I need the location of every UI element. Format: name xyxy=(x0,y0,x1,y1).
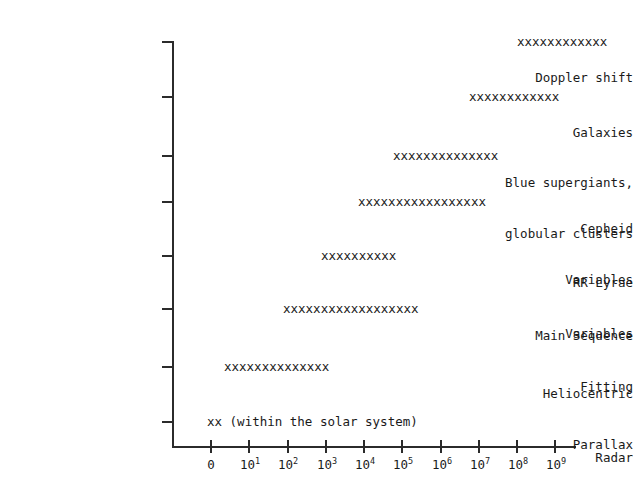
y-label-line: Galaxies xyxy=(473,124,633,141)
x-tick-3 xyxy=(325,440,327,453)
x-tick-base: 10 xyxy=(470,457,485,472)
x-tick-label-6: 106 xyxy=(432,458,452,472)
x-tick-exponent: 5 xyxy=(408,456,413,466)
data-row-heliocentric-parallax: xxxxxxxxxxxxxx xyxy=(224,360,329,374)
data-row-rr-lyrae-variables: xxxxxxxxxx xyxy=(321,249,396,263)
x-tick-6 xyxy=(440,440,442,453)
x-tick-label-4: 104 xyxy=(355,458,375,472)
data-row-main-sequence-fitting: xxxxxxxxxxxxxxxxxx xyxy=(283,302,418,316)
y-label-line: Main Sequence xyxy=(473,327,633,344)
distance-ladder-chart: Doppler shift Galaxies Blue supergiants,… xyxy=(0,0,633,498)
y-axis-line xyxy=(172,41,174,448)
x-tick-2 xyxy=(287,440,289,453)
x-tick-exponent: 7 xyxy=(485,456,490,466)
y-tick-cepheid-variables xyxy=(162,201,173,203)
y-tick-radar xyxy=(162,421,173,423)
y-label-line: Doppler shift xyxy=(473,69,633,86)
x-tick-9 xyxy=(554,440,556,453)
data-row-doppler-shift: xxxxxxxxxxxx xyxy=(517,35,607,49)
y-tick-heliocentric-parallax xyxy=(162,366,173,368)
data-row-galaxies: xxxxxxxxxxxx xyxy=(469,90,559,104)
x-tick-1 xyxy=(248,440,250,453)
x-tick-label-9: 109 xyxy=(546,458,566,472)
y-tick-main-sequence-fitting xyxy=(162,308,173,310)
x-tick-exponent: 6 xyxy=(447,456,452,466)
x-tick-exponent: 2 xyxy=(293,456,298,466)
x-tick-exponent: 3 xyxy=(332,456,337,466)
y-label-line: Cepheid xyxy=(473,220,633,237)
x-tick-label-1: 101 xyxy=(240,458,260,472)
x-tick-base: 10 xyxy=(317,457,332,472)
y-tick-galaxies xyxy=(162,96,173,98)
x-tick-exponent: 9 xyxy=(561,456,566,466)
y-label-line: RR Lyrae xyxy=(473,274,633,291)
x-tick-base: 10 xyxy=(546,457,561,472)
x-tick-base: 10 xyxy=(278,457,293,472)
x-tick-exponent: 8 xyxy=(523,456,528,466)
x-tick-base: 10 xyxy=(508,457,523,472)
x-tick-label-5: 105 xyxy=(393,458,413,472)
data-row-cepheid-variables: xxxxxxxxxxxxxxxxx xyxy=(358,195,486,209)
y-label-line: Heliocentric xyxy=(473,385,633,402)
x-tick-base: 10 xyxy=(355,457,370,472)
x-tick-exponent: 4 xyxy=(370,456,375,466)
x-tick-base: 10 xyxy=(432,457,447,472)
radar-annotation: (within the solar system) xyxy=(222,414,418,429)
data-row-radar: xx (within the solar system) xyxy=(207,415,418,429)
x-tick-exponent: 1 xyxy=(255,456,260,466)
x-tick-label-8: 108 xyxy=(508,458,528,472)
radar-markers: xx xyxy=(207,414,222,429)
x-tick-label-2: 102 xyxy=(278,458,298,472)
x-tick-5 xyxy=(401,440,403,453)
y-tick-rr-lyrae-variables xyxy=(162,255,173,257)
x-tick-label-3: 103 xyxy=(317,458,337,472)
x-tick-label-0: 0 xyxy=(207,458,215,472)
data-row-blue-supergiants: xxxxxxxxxxxxxx xyxy=(393,149,498,163)
y-tick-blue-supergiants xyxy=(162,155,173,157)
x-tick-0 xyxy=(210,440,212,453)
x-tick-label-7: 107 xyxy=(470,458,490,472)
x-tick-8 xyxy=(516,440,518,453)
x-tick-base: 0 xyxy=(207,457,215,472)
x-tick-base: 10 xyxy=(393,457,408,472)
y-tick-doppler-shift xyxy=(162,41,173,43)
x-tick-base: 10 xyxy=(240,457,255,472)
x-tick-4 xyxy=(363,440,365,453)
x-tick-7 xyxy=(478,440,480,453)
